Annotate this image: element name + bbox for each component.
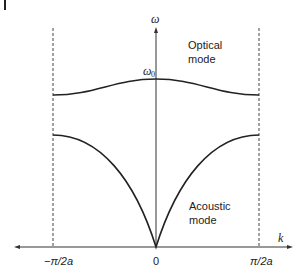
dispersion-diagram: ω k ω 0 Optical mode Acoustic mode −π/2a… [0, 0, 307, 278]
y-axis-label: ω [151, 12, 159, 26]
x-axis-label: k [278, 231, 284, 245]
y-axis-arrow-icon [154, 27, 158, 33]
page-corner-mark [4, 0, 6, 10]
x-tick-zero: 0 [153, 255, 159, 267]
omega0-subscript: 0 [151, 70, 155, 79]
acoustic-mode-label-line1: Acoustic [189, 200, 231, 212]
x-tick-neg-zone: −π/2a [44, 255, 73, 267]
x-tick-pos-zone: π/2a [250, 255, 273, 267]
acoustic-mode-label-line2: mode [189, 214, 217, 226]
optical-mode-label-line2: mode [188, 53, 216, 65]
x-axis-left-arrow-icon [14, 245, 20, 249]
optical-mode-label-line1: Optical [188, 39, 222, 51]
x-axis-right-arrow-icon [287, 245, 293, 249]
